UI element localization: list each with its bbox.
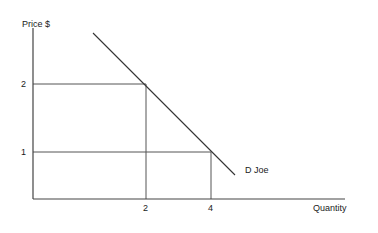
rect-price-2 bbox=[33, 84, 146, 199]
y-tick-label-2: 2 bbox=[21, 79, 26, 90]
x-axis-title: Quantity bbox=[313, 203, 347, 214]
demand-curve-line bbox=[93, 33, 235, 175]
y-axis-title: Price $ bbox=[22, 19, 50, 30]
rect-price-1 bbox=[33, 152, 211, 199]
demand-curve-plot bbox=[0, 0, 378, 233]
x-tick-label-4: 4 bbox=[208, 203, 213, 214]
y-tick-label-1: 1 bbox=[21, 147, 26, 158]
x-tick-label-2: 2 bbox=[143, 203, 148, 214]
demand-curve-label: D Joe bbox=[245, 165, 269, 176]
chart-canvas: Price $ Quantity 2 1 2 4 D Joe bbox=[0, 0, 378, 233]
